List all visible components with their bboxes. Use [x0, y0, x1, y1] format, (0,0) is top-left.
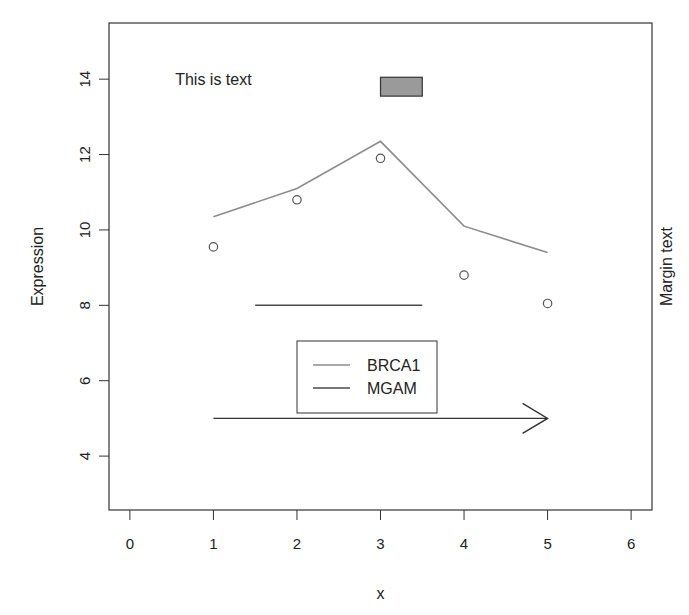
x-tick-label: 5 — [543, 535, 551, 552]
x-tick-label: 4 — [460, 535, 468, 552]
annotation-rect — [381, 77, 423, 96]
x-tick-label: 0 — [126, 535, 134, 552]
series-layer — [209, 141, 552, 307]
y-tick-label: 12 — [76, 146, 93, 163]
data-point — [293, 196, 301, 204]
x-tick-label: 6 — [627, 535, 635, 552]
x-tick-label: 1 — [209, 535, 217, 552]
y-tick-label: 10 — [76, 222, 93, 239]
chart: 0123456 468101214 x Expression Margin te… — [0, 0, 689, 615]
x-axis: 0123456 — [126, 510, 636, 552]
data-point — [209, 243, 217, 251]
annotation-text: This is text — [175, 71, 252, 88]
series-brca1 — [213, 141, 547, 252]
legend: BRCA1 MGAM — [297, 341, 437, 413]
x-axis-title: x — [377, 585, 385, 602]
data-point — [543, 299, 551, 307]
y-tick-label: 8 — [76, 301, 93, 309]
y-axis: 468101214 — [76, 71, 109, 460]
margin-text: Margin text — [658, 226, 675, 306]
y-tick-label: 4 — [76, 452, 93, 460]
legend-box — [297, 341, 437, 413]
y-tick-label: 14 — [76, 71, 93, 88]
y-tick-label: 6 — [76, 377, 93, 385]
data-point — [460, 271, 468, 279]
data-point — [376, 154, 384, 162]
y-axis-title: Expression — [29, 227, 46, 306]
x-tick-label: 2 — [293, 535, 301, 552]
legend-label-brca1: BRCA1 — [367, 357, 420, 374]
x-tick-label: 3 — [376, 535, 384, 552]
legend-label-mgam: MGAM — [367, 380, 417, 397]
